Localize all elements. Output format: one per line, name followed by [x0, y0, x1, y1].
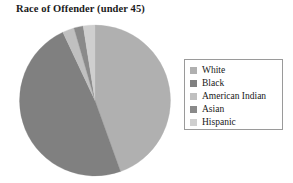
legend-swatch-asian	[190, 106, 197, 113]
legend-item-american-indian[interactable]: American Indian	[190, 90, 282, 103]
legend-label-white: White	[202, 64, 225, 77]
legend: White Black American Indian Asian Hispan…	[184, 59, 283, 130]
legend-item-hispanic[interactable]: Hispanic	[190, 116, 282, 129]
pie-chart	[19, 24, 171, 177]
legend-swatch-white	[190, 67, 197, 74]
legend-label-black: Black	[202, 77, 224, 90]
legend-swatch-american-indian	[190, 93, 197, 100]
pie-chart-svg	[19, 24, 171, 177]
legend-label-hispanic: Hispanic	[202, 116, 236, 129]
legend-label-american-indian: American Indian	[202, 90, 266, 103]
legend-item-white[interactable]: White	[190, 64, 282, 77]
legend-swatch-hispanic	[190, 119, 197, 126]
legend-item-black[interactable]: Black	[190, 77, 282, 90]
chart-page: Race of Offender (under 45) White Black …	[0, 0, 293, 183]
page-title: Race of Offender (under 45)	[16, 3, 216, 14]
legend-swatch-black	[190, 80, 197, 87]
legend-label-asian: Asian	[202, 103, 224, 116]
pie-slice-group	[20, 25, 171, 176]
legend-item-asian[interactable]: Asian	[190, 103, 282, 116]
